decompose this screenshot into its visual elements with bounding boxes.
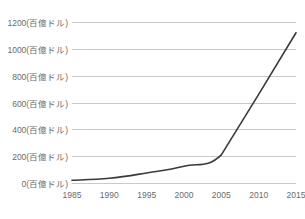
y-axis-tick-label: 1000(百億ドル) bbox=[0, 43, 68, 55]
x-axis-tick-label: 1995 bbox=[137, 190, 156, 200]
line-chart: 0(百億ドル)200(百億ドル)400(百億ドル)600(百億ドル)800(百億… bbox=[0, 0, 305, 219]
y-axis-tick-labels: 0(百億ドル)200(百億ドル)400(百億ドル)600(百億ドル)800(百億… bbox=[0, 22, 68, 183]
gridline bbox=[72, 183, 296, 184]
y-axis-tick-label: 0(百億ドル) bbox=[0, 177, 68, 189]
x-axis-tick-labels: 1985199019952000200520102015 bbox=[0, 190, 305, 204]
x-axis-tick-label: 2005 bbox=[212, 190, 231, 200]
y-axis-tick-label: 400(百億ドル) bbox=[0, 123, 68, 135]
x-axis-tick-label: 2000 bbox=[175, 190, 194, 200]
x-axis-tick-label: 2015 bbox=[287, 190, 305, 200]
y-axis-tick-label: 1200(百億ドル) bbox=[0, 16, 68, 28]
series-line-value bbox=[72, 22, 296, 183]
y-axis-tick-label: 800(百億ドル) bbox=[0, 70, 68, 82]
y-axis-tick-label: 600(百億ドル) bbox=[0, 97, 68, 109]
x-axis-tick-label: 1990 bbox=[100, 190, 119, 200]
y-axis-tick-label: 200(百億ドル) bbox=[0, 150, 68, 162]
plot-area bbox=[72, 22, 296, 183]
series-path bbox=[72, 33, 296, 181]
x-axis-tick-label: 2010 bbox=[249, 190, 268, 200]
x-axis-tick-label: 1985 bbox=[63, 190, 82, 200]
